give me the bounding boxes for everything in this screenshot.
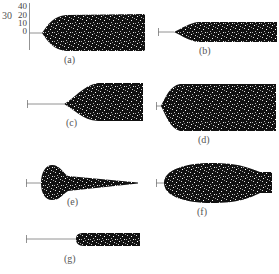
panel-label-f: (f)	[197, 207, 207, 217]
panel-label-d: (d)	[198, 135, 210, 145]
shape-b	[158, 22, 277, 42]
axis-left-label: 30	[2, 11, 12, 21]
axis-tick-label: 0	[13, 27, 27, 36]
panel-label-b: (b)	[199, 46, 211, 56]
jet-shapes-figure	[0, 0, 279, 274]
panel-label-c: (c)	[66, 118, 77, 128]
panel-label-e: (e)	[67, 197, 78, 207]
panel-label-g: (g)	[64, 254, 76, 264]
shape-g	[26, 233, 140, 246]
shape-d	[156, 84, 276, 131]
vertical-axis	[30, 3, 43, 50]
shape-e	[26, 165, 138, 200]
shape-a	[42, 14, 145, 51]
shape-c	[27, 83, 143, 121]
shape-f	[156, 163, 272, 203]
panel-label-a: (a)	[64, 55, 75, 65]
